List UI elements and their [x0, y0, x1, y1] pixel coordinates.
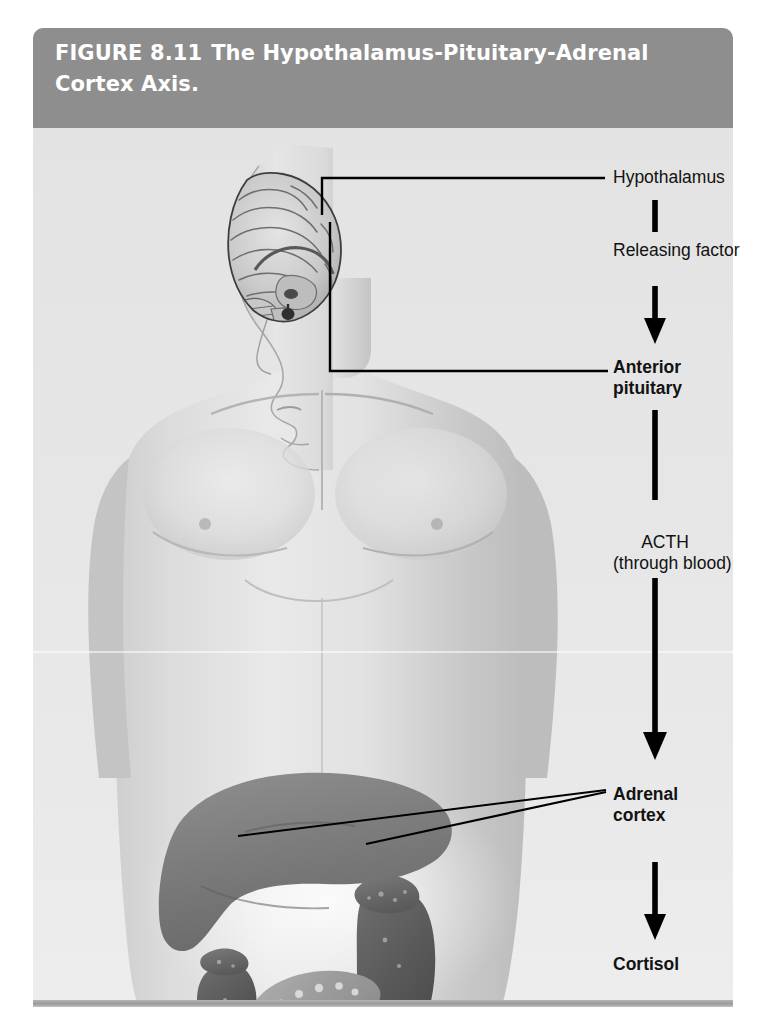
nipple-right: [431, 518, 443, 530]
figure-title-line1: The Hypothalamus-Pituitary-Adrenal: [211, 41, 648, 65]
figure-caption-text: FIGURE 8.11The Hypothalamus-Pituitary-Ad…: [55, 38, 717, 100]
label-adrenal-cortex-line2: cortex: [613, 805, 678, 826]
label-cortisol: Cortisol: [613, 954, 679, 975]
label-adrenal-cortex-line1: Adrenal: [613, 784, 678, 805]
figure-title-line2: Cortex Axis.: [55, 72, 199, 96]
figure-container: FIGURE 8.11The Hypothalamus-Pituitary-Ad…: [0, 0, 757, 1028]
label-acth-line2: (through blood): [613, 553, 717, 574]
figure-bottom-rule: [33, 1000, 733, 1007]
hypothalamus-structure: [284, 289, 298, 299]
label-releasing-factor: Releasing factor: [613, 240, 739, 261]
panel-seam: [33, 651, 733, 653]
label-adrenal-cortex: Adrenal cortex: [613, 784, 678, 826]
label-acth-line1: ACTH: [613, 532, 717, 553]
label-anterior-pituitary: Anterior pituitary: [613, 357, 682, 399]
label-anterior-pituitary-line2: pituitary: [613, 378, 682, 399]
human-body-figure: [88, 138, 558, 1002]
label-acth: ACTH (through blood): [613, 532, 717, 574]
figure-number: FIGURE 8.11: [55, 41, 202, 65]
figure-caption-band: FIGURE 8.11The Hypothalamus-Pituitary-Ad…: [33, 28, 733, 128]
label-anterior-pituitary-line1: Anterior: [613, 357, 682, 378]
nipple-left: [199, 518, 211, 530]
label-hypothalamus: Hypothalamus: [613, 167, 725, 188]
